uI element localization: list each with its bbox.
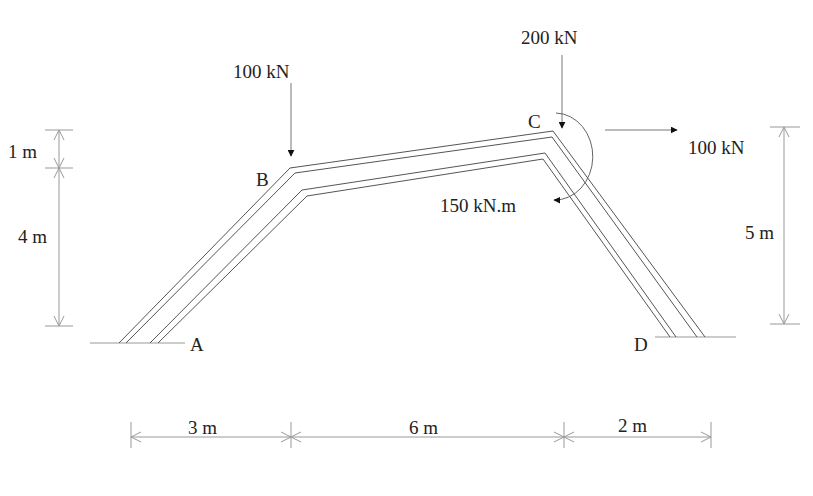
load-label-b: 100 kN	[233, 62, 289, 81]
node-label-c: C	[528, 112, 541, 131]
frame-member	[119, 131, 705, 343]
dim-label-left-upper: 1 m	[8, 142, 37, 161]
moment-label-c: 150 kN.m	[440, 196, 516, 215]
frame-drawing	[0, 0, 813, 496]
dim-label-bottom-2: 6 m	[409, 418, 438, 437]
dim-label-bottom-1: 3 m	[188, 418, 217, 437]
frame-diagram: A B C D 100 kN 200 kN 100 kN 150 kN.m 1 …	[0, 0, 813, 496]
node-label-b: B	[256, 170, 269, 189]
left-dimension	[45, 130, 73, 326]
node-label-a: A	[190, 335, 204, 354]
moment-arc-c	[554, 113, 593, 200]
dim-label-left-lower: 4 m	[18, 227, 47, 246]
dim-label-right: 5 m	[745, 223, 774, 242]
right-dimension	[770, 127, 800, 324]
load-label-c-vertical: 200 kN	[521, 28, 577, 47]
node-label-d: D	[634, 335, 648, 354]
load-label-c-horizontal: 100 kN	[688, 138, 744, 157]
dim-label-bottom-3: 2 m	[618, 416, 647, 435]
